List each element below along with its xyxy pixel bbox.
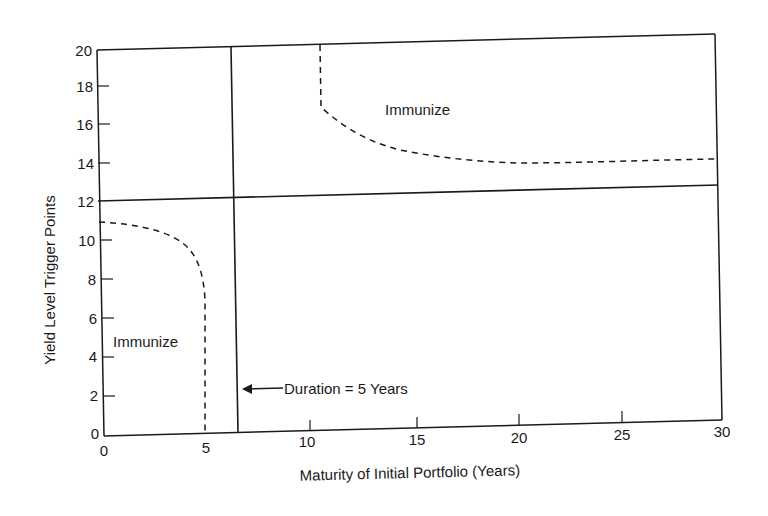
lower-left-boundary [99, 222, 205, 432]
frame-right [715, 34, 722, 420]
duration-line [231, 47, 238, 432]
upper-right-boundary [320, 45, 715, 163]
immunize-label-upper: Immunize [385, 101, 450, 118]
trigger-line-12 [98, 185, 718, 201]
y-tick-labels: 20 18 16 14 12 10 8 6 4 2 0 [75, 42, 99, 442]
y-axis-title: Yield Level Trigger Points [41, 195, 58, 365]
svg-text:25: 25 [614, 426, 631, 443]
svg-text:30: 30 [714, 423, 731, 440]
svg-text:15: 15 [409, 431, 426, 448]
svg-text:10: 10 [299, 433, 316, 450]
x-axis-title: Maturity of Initial Portfolio (Years) [300, 461, 521, 483]
chart: 20 18 16 14 12 10 8 6 4 2 0 0 5 10 15 20… [0, 0, 768, 516]
svg-text:14: 14 [77, 155, 94, 172]
immunize-label-lower: Immunize [113, 333, 178, 350]
frame-top [97, 34, 715, 50]
svg-text:6: 6 [89, 310, 97, 327]
plot-frame [97, 34, 722, 436]
svg-text:20: 20 [75, 42, 92, 59]
svg-text:20: 20 [511, 429, 528, 446]
svg-text:0: 0 [100, 442, 108, 459]
x-ticks [310, 411, 622, 431]
svg-text:4: 4 [89, 348, 97, 365]
duration-annotation: Duration = 5 Years [242, 380, 408, 397]
svg-text:5: 5 [202, 439, 210, 456]
svg-text:0: 0 [91, 425, 99, 442]
svg-text:2: 2 [90, 387, 98, 404]
svg-text:12: 12 [77, 193, 94, 210]
frame-left [97, 50, 104, 436]
svg-text:10: 10 [78, 232, 95, 249]
arrow-shaft [247, 388, 283, 389]
arrow-left-icon [242, 384, 252, 394]
svg-text:18: 18 [76, 78, 93, 95]
duration-label: Duration = 5 Years [284, 380, 408, 397]
svg-text:8: 8 [88, 271, 96, 288]
svg-text:16: 16 [76, 116, 93, 133]
